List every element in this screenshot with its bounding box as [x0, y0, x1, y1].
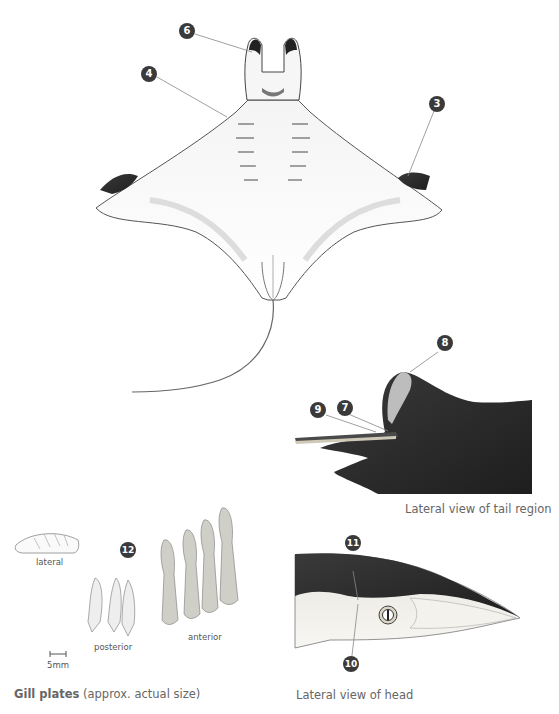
callout-7: 7 [337, 400, 353, 416]
ray-ventral-view [96, 34, 442, 392]
callout-3: 3 [429, 96, 445, 112]
gill-plates-caption-title: Gill plates [14, 687, 79, 701]
callout-9: 9 [310, 402, 326, 418]
callout-8: 8 [437, 335, 453, 351]
head-lateral-view [295, 553, 520, 664]
callout-12: 12 [120, 542, 136, 558]
callout-10: 10 [343, 656, 359, 672]
callout-4: 4 [141, 66, 157, 82]
gill-plates-caption-note: (approx. actual size) [79, 687, 200, 701]
label-posterior: posterior [94, 642, 132, 652]
callout-6: 6 [179, 23, 195, 39]
tail-lateral-view [295, 352, 532, 494]
callout-11: 11 [345, 535, 361, 551]
label-lateral: lateral [36, 557, 63, 567]
tail-view-caption: Lateral view of tail region [405, 502, 552, 516]
head-view-caption: Lateral view of head [296, 688, 413, 702]
manta-illustration [0, 0, 559, 714]
gill-plates-caption: Gill plates (approx. actual size) [14, 687, 200, 701]
label-anterior: anterior [188, 632, 222, 642]
scale-bar-label: 5mm [47, 660, 69, 670]
